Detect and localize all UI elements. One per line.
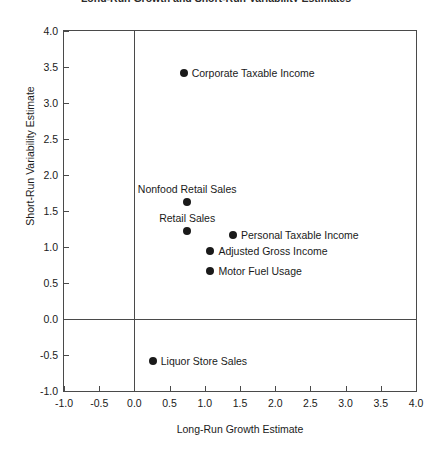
data-point-label: Motor Fuel Usage	[218, 266, 301, 277]
x-axis-tick	[416, 386, 417, 391]
data-point-marker	[206, 247, 214, 255]
data-point-label: Nonfood Retail Sales	[138, 184, 237, 195]
y-axis-tick-label: 0.5	[24, 278, 58, 289]
y-axis-tick	[64, 355, 69, 356]
x-axis-tick	[170, 386, 171, 391]
y-axis-tick	[64, 283, 69, 284]
y-axis-tick-label: -0.5	[24, 350, 58, 361]
y-axis-tick	[64, 67, 69, 68]
x-axis-tick-label: -0.5	[79, 398, 119, 409]
data-point-label: Corporate Taxable Income	[192, 68, 315, 79]
plot-area: -1.0-0.50.00.51.01.52.02.53.03.54.0-1.0-…	[63, 30, 417, 392]
y-axis-tick	[64, 139, 69, 140]
data-point-marker	[183, 227, 191, 235]
y-axis-tick-label: -1.0	[24, 386, 58, 397]
y-axis-tick	[64, 175, 69, 176]
x-axis-tick-label: 0.0	[114, 398, 154, 409]
x-axis-tick	[346, 386, 347, 391]
data-point-label: Retail Sales	[159, 213, 215, 224]
x-axis-tick-label: 0.5	[150, 398, 190, 409]
y-axis-tick-label: 4.0	[24, 26, 58, 37]
zero-line-vertical	[134, 31, 135, 391]
data-point-label: Liquor Store Sales	[161, 356, 247, 367]
x-axis-tick-label: 1.5	[220, 398, 260, 409]
x-axis-tick	[275, 386, 276, 391]
x-axis-tick	[205, 386, 206, 391]
y-axis-title: Short-Run Variability Estimate	[24, 66, 36, 246]
y-axis-tick	[64, 391, 69, 392]
x-axis-tick	[310, 386, 311, 391]
data-point-marker	[180, 69, 188, 77]
data-point-marker	[149, 357, 157, 365]
x-axis-title: Long-Run Growth Estimate	[63, 423, 417, 435]
y-axis-tick	[64, 211, 69, 212]
y-axis-tick-label: 0.0	[24, 314, 58, 325]
x-axis-tick-label: 3.0	[326, 398, 366, 409]
x-axis-tick-label: 1.0	[185, 398, 225, 409]
x-axis-tick	[240, 386, 241, 391]
data-point-marker	[229, 231, 237, 239]
scatter-chart: Long-Run Growth and Short-Run Variabilit…	[0, 0, 432, 453]
data-point-marker	[206, 267, 214, 275]
y-axis-tick	[64, 103, 69, 104]
x-axis-tick-label: 2.0	[255, 398, 295, 409]
chart-title: Long-Run Growth and Short-Run Variabilit…	[0, 0, 432, 2]
x-axis-tick-label: 3.5	[361, 398, 401, 409]
x-axis-tick-label: 4.0	[396, 398, 432, 409]
x-axis-tick-label: -1.0	[44, 398, 84, 409]
x-axis-tick	[64, 386, 65, 391]
x-axis-tick	[381, 386, 382, 391]
y-axis-tick	[64, 247, 69, 248]
y-axis-tick	[64, 319, 69, 320]
y-axis-tick	[64, 31, 69, 32]
zero-line-horizontal	[64, 319, 416, 320]
data-point-marker	[183, 198, 191, 206]
x-axis-tick	[99, 386, 100, 391]
x-axis-tick	[134, 386, 135, 391]
x-axis-tick-label: 2.5	[290, 398, 330, 409]
data-point-label: Personal Taxable Income	[241, 229, 359, 240]
data-point-label: Adjusted Gross Income	[218, 246, 327, 257]
